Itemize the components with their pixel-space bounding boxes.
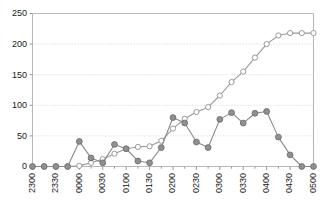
x-tick-label: 0130 bbox=[144, 173, 154, 193]
data-point-cumulative bbox=[217, 93, 222, 98]
data-point-interval bbox=[30, 164, 36, 170]
x-axis-labels: 2300233000000030010001300200023003000330… bbox=[27, 173, 318, 193]
x-tick-label: 0430 bbox=[284, 173, 294, 193]
data-point-interval bbox=[240, 120, 246, 126]
y-tick-label: 50 bbox=[17, 131, 27, 141]
x-tick-label: 2300 bbox=[27, 173, 37, 193]
x-tick-label: 0400 bbox=[261, 173, 271, 193]
data-point-interval bbox=[217, 116, 223, 122]
x-tick-label: 0100 bbox=[121, 173, 131, 193]
x-tick-label: 0000 bbox=[74, 173, 84, 193]
data-point-interval bbox=[100, 160, 106, 166]
x-tick-label: 0200 bbox=[167, 173, 177, 193]
chart-container: 050100150200250 230023300000003001000130… bbox=[0, 0, 322, 204]
data-point-interval bbox=[194, 139, 200, 145]
data-point-cumulative bbox=[206, 105, 211, 110]
data-point-interval bbox=[65, 164, 71, 170]
data-point-cumulative bbox=[77, 163, 82, 168]
y-axis-labels: 050100150200250 bbox=[12, 8, 27, 171]
data-point-interval bbox=[205, 145, 211, 151]
data-point-cumulative bbox=[287, 30, 292, 35]
data-point-interval bbox=[112, 142, 118, 148]
data-point-interval bbox=[182, 120, 188, 126]
x-tick-label: 2330 bbox=[50, 173, 60, 193]
data-point-interval bbox=[299, 164, 305, 170]
x-tick-label: 0230 bbox=[191, 173, 201, 193]
data-point-cumulative bbox=[299, 30, 304, 35]
data-point-interval bbox=[88, 155, 94, 161]
line-chart: 050100150200250 230023300000003001000130… bbox=[0, 0, 322, 204]
data-point-interval bbox=[135, 158, 141, 164]
x-tick-label: 0500 bbox=[308, 173, 318, 193]
data-point-interval bbox=[252, 110, 258, 116]
data-point-interval bbox=[264, 109, 270, 115]
data-point-cumulative bbox=[170, 126, 175, 131]
data-point-cumulative bbox=[135, 144, 140, 149]
x-tick-label: 0030 bbox=[97, 173, 107, 193]
data-point-cumulative bbox=[147, 144, 152, 149]
data-point-cumulative bbox=[276, 33, 281, 38]
y-tick-label: 250 bbox=[12, 8, 27, 18]
data-point-cumulative bbox=[229, 79, 234, 84]
data-point-interval bbox=[170, 115, 176, 121]
y-tick-label: 150 bbox=[12, 70, 27, 80]
data-point-interval bbox=[53, 164, 59, 170]
data-point-interval bbox=[41, 164, 47, 170]
data-point-cumulative bbox=[241, 69, 246, 74]
x-tick-label: 0300 bbox=[214, 173, 224, 193]
data-point-cumulative bbox=[311, 30, 316, 35]
y-tick-label: 0 bbox=[22, 161, 27, 171]
data-point-interval bbox=[158, 145, 164, 151]
data-point-cumulative bbox=[252, 55, 257, 60]
data-point-interval bbox=[147, 160, 153, 166]
series-interval bbox=[30, 109, 317, 170]
data-point-cumulative bbox=[264, 42, 269, 47]
data-point-interval bbox=[123, 146, 129, 152]
series-cumulative bbox=[30, 30, 316, 169]
data-point-interval bbox=[76, 139, 82, 145]
data-point-cumulative bbox=[112, 151, 117, 156]
data-point-interval bbox=[229, 110, 235, 116]
plot-frame bbox=[33, 14, 314, 167]
series-line-cumulative bbox=[33, 33, 314, 166]
data-point-cumulative bbox=[194, 109, 199, 114]
data-point-interval bbox=[311, 164, 317, 170]
y-tick-label: 200 bbox=[12, 39, 27, 49]
data-point-interval bbox=[287, 152, 293, 158]
x-tick-label: 0330 bbox=[238, 173, 248, 193]
data-point-interval bbox=[275, 134, 281, 140]
y-tick-label: 100 bbox=[12, 100, 27, 110]
